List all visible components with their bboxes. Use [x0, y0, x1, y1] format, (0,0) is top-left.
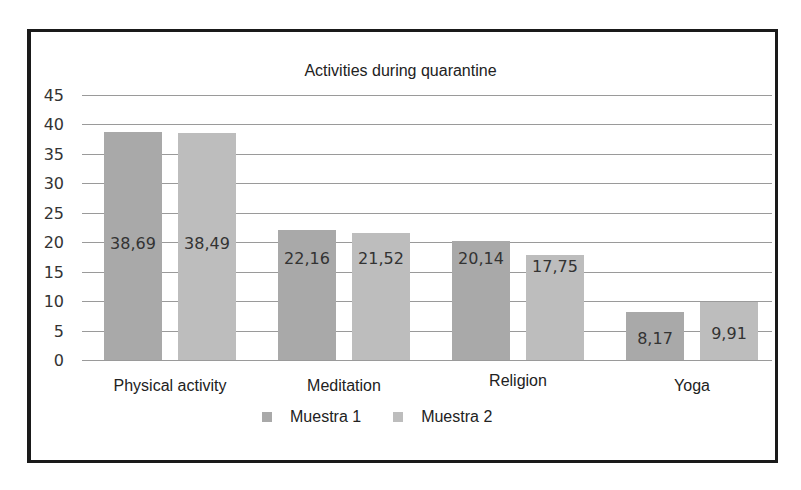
legend-swatch-icon: [262, 412, 272, 422]
bar-value-label: 38,49: [184, 234, 230, 253]
x-category-label: Religion: [489, 372, 547, 390]
bar-value-label: 17,75: [532, 257, 578, 276]
bar-value-label: 9,91: [711, 323, 747, 342]
y-tick-label: 30: [40, 174, 64, 193]
legend-label: Muestra 1: [290, 408, 361, 426]
gridline: [82, 95, 772, 96]
y-tick-label: 5: [40, 321, 64, 340]
x-category-label: Yoga: [674, 377, 710, 395]
gridline: [82, 360, 772, 361]
bar-value-label: 38,69: [110, 234, 156, 253]
y-tick-label: 45: [40, 86, 64, 105]
gridline: [82, 124, 772, 125]
legend: Muestra 1 Muestra 2: [262, 408, 524, 426]
legend-item-muestra-2: Muestra 2: [393, 408, 492, 426]
y-tick-label: 35: [40, 144, 64, 163]
chart-title: Activities during quarantine: [0, 62, 801, 80]
y-tick-label: 0: [40, 351, 64, 370]
y-tick-label: 20: [40, 233, 64, 252]
y-tick-label: 15: [40, 262, 64, 281]
bar-value-label: 20,14: [458, 249, 504, 268]
bar-value-label: 22,16: [284, 249, 330, 268]
y-tick-label: 10: [40, 292, 64, 311]
y-tick-label: 40: [40, 115, 64, 134]
x-category-label: Physical activity: [114, 377, 227, 395]
legend-swatch-icon: [393, 412, 403, 422]
bar-value-label: 8,17: [637, 328, 673, 347]
bar-value-label: 21,52: [358, 249, 404, 268]
y-tick-label: 25: [40, 203, 64, 222]
x-category-label: Meditation: [307, 377, 381, 395]
legend-item-muestra-1: Muestra 1: [262, 408, 361, 426]
legend-label: Muestra 2: [421, 408, 492, 426]
